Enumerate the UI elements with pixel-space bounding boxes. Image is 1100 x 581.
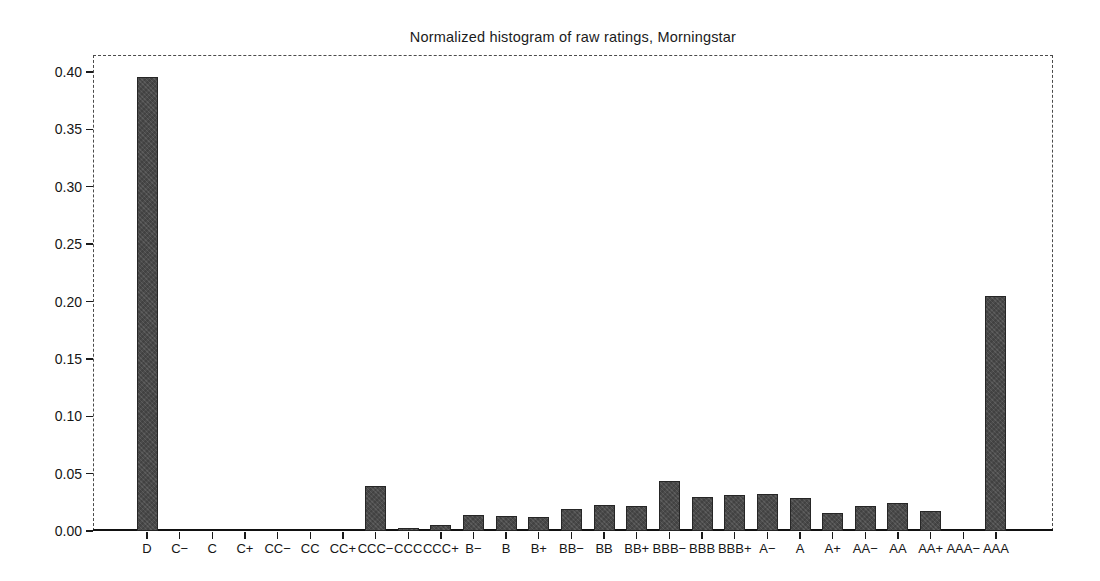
bar-BBminus (561, 509, 582, 531)
x-axis-tick (669, 532, 670, 539)
x-axis-tick-label: BB− (559, 542, 584, 555)
x-axis-tick (538, 532, 539, 539)
x-axis-tick-label: AAA (983, 542, 1009, 555)
x-axis-tick-label: BB+ (624, 542, 649, 555)
bar-Aminus (757, 494, 778, 531)
x-axis-tick-label: AA (889, 542, 906, 555)
x-axis-tick-label: A+ (825, 542, 841, 555)
x-axis-tick-label: CC+ (330, 542, 356, 555)
bar-AAminus (855, 506, 876, 531)
chart-title: Normalized histogram of raw ratings, Mor… (93, 29, 1053, 45)
bar-Aplus (822, 513, 843, 531)
x-axis-tick-label: BBB+ (718, 542, 752, 555)
bar-A (790, 498, 811, 531)
x-axis-tick-label: CCC+ (423, 542, 459, 555)
bar-CCC (398, 528, 419, 531)
bar-Bminus (463, 515, 484, 531)
bar-B (496, 516, 517, 531)
y-axis-tick (86, 301, 93, 302)
x-axis-tick (212, 532, 213, 539)
y-axis-tick (86, 186, 93, 187)
x-axis-tick-label: B− (465, 542, 481, 555)
x-axis-tick (179, 532, 180, 539)
x-axis-tick (146, 532, 147, 539)
x-axis-tick-label: B (502, 542, 511, 555)
x-axis-tick-label: BB (595, 542, 612, 555)
bar-Bplus (528, 517, 549, 531)
x-axis-tick-label: A− (759, 542, 775, 555)
bar-BBBminus (659, 481, 680, 531)
x-axis-tick-label: CCC (394, 542, 422, 555)
x-axis-tick (440, 532, 441, 539)
y-axis-tick (86, 129, 93, 130)
y-axis-tick (86, 358, 93, 359)
y-axis-tick (86, 71, 93, 72)
y-axis-tick-label: 0.40 (38, 65, 82, 79)
bar-CCCminus (365, 486, 386, 531)
x-axis-tick-label: AA− (853, 542, 878, 555)
x-axis-tick (603, 532, 604, 539)
bar-CCCplus (430, 525, 451, 531)
y-axis-tick-label: 0.20 (38, 295, 82, 309)
x-axis-tick (473, 532, 474, 539)
bar-BB (594, 505, 615, 531)
x-axis-tick-label: D (142, 542, 151, 555)
x-axis-tick-label: AA+ (918, 542, 943, 555)
y-axis-tick (86, 416, 93, 417)
plot-area (93, 55, 1053, 531)
y-axis-tick-label: 0.35 (38, 122, 82, 136)
y-axis-tick-label: 0.10 (38, 409, 82, 423)
y-axis-tick (86, 243, 93, 244)
x-axis-tick (244, 532, 245, 539)
x-axis-tick-label: CC− (264, 542, 290, 555)
x-axis-tick (342, 532, 343, 539)
bar-AAA (985, 296, 1006, 531)
x-axis-tick (310, 532, 311, 539)
x-axis-tick-label: C+ (236, 542, 253, 555)
y-axis-tick-label: 0.05 (38, 467, 82, 481)
x-axis-tick (865, 532, 866, 539)
x-axis-tick-label: C− (171, 542, 188, 555)
y-axis-tick-label: 0.15 (38, 352, 82, 366)
x-axis-tick-label: CC (301, 542, 320, 555)
y-axis-tick (86, 473, 93, 474)
x-axis-tick-label: C (208, 542, 217, 555)
bar-BBB (692, 497, 713, 531)
y-axis-tick-label: 0.30 (38, 180, 82, 194)
x-axis-tick-label: CCC− (358, 542, 394, 555)
x-axis-tick (734, 532, 735, 539)
x-axis-tick-label: BBB (689, 542, 715, 555)
x-axis-tick (995, 532, 996, 539)
x-axis-tick (701, 532, 702, 539)
x-axis-tick-label: A (796, 542, 805, 555)
bar-D (137, 77, 158, 531)
x-axis-tick-label: BBB− (653, 542, 687, 555)
x-axis-tick (832, 532, 833, 539)
x-axis-tick-label: AAA− (946, 542, 980, 555)
y-axis-tick-label: 0.25 (38, 237, 82, 251)
x-axis-tick (767, 532, 768, 539)
bar-AA (887, 503, 908, 531)
x-axis-tick (799, 532, 800, 539)
x-axis-tick (930, 532, 931, 539)
x-axis-tick (963, 532, 964, 539)
y-axis-tick (86, 530, 93, 531)
x-axis-tick (277, 532, 278, 539)
y-axis-tick-label: 0.00 (38, 524, 82, 538)
bar-AAplus (920, 511, 941, 531)
x-axis-tick (375, 532, 376, 539)
figure-canvas: Normalized histogram of raw ratings, Mor… (0, 0, 1100, 581)
bar-BBBplus (724, 495, 745, 531)
x-axis-tick (571, 532, 572, 539)
x-axis-tick (897, 532, 898, 539)
x-axis-tick (505, 532, 506, 539)
x-axis-tick (636, 532, 637, 539)
x-axis-tick-label: B+ (531, 542, 547, 555)
bar-BBplus (626, 506, 647, 531)
x-axis-tick (408, 532, 409, 539)
